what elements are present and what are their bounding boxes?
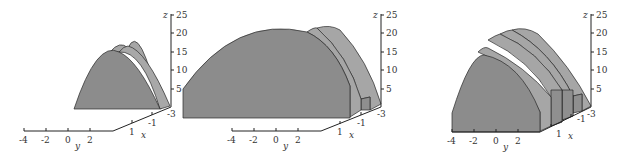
z-tick-label: 25	[596, 10, 608, 20]
y-tick-label: 0	[65, 135, 71, 145]
x-tick-label: -1	[357, 118, 366, 128]
z-tick-label: 25	[386, 10, 398, 20]
y-tick-label: 0	[493, 136, 499, 146]
y-tick-label: 2	[515, 136, 521, 146]
x-axis-label: x	[349, 130, 354, 140]
z-ticks: 5 10 15 20 25 z	[372, 10, 398, 94]
x-tick-label: -3	[587, 109, 596, 119]
z-tick-label: 20	[596, 28, 608, 38]
z-tick-label: 5	[596, 84, 602, 94]
x-tick-label: -1	[148, 118, 157, 128]
y-axis-label: y	[74, 141, 81, 151]
z-ticks: 5 10 15 20 25 z	[162, 10, 188, 94]
z-axis-label: z	[372, 10, 378, 20]
z-tick-label: 10	[176, 65, 188, 75]
z-tick-label: 10	[386, 65, 398, 75]
x-tick-label: 1	[129, 127, 135, 137]
y-tick-label: -2	[249, 135, 258, 145]
y-axis-label: y	[282, 141, 289, 151]
z-tick-label: 20	[176, 28, 188, 38]
x-tick-label: 1	[337, 127, 343, 137]
solid	[452, 29, 591, 132]
x-tick-label: -3	[167, 109, 176, 119]
x-axis-line	[113, 107, 171, 131]
y-tick-label: -4	[227, 135, 236, 145]
y-axis-label: y	[502, 142, 509, 152]
z-tick-label: 15	[176, 47, 188, 57]
z-tick-label: 5	[176, 84, 182, 94]
y-tick-label: 0	[273, 135, 279, 145]
slab-front-face	[74, 50, 160, 109]
slab-front-face	[573, 94, 582, 113]
y-tick-label: -2	[41, 135, 50, 145]
solid	[183, 26, 381, 118]
y-tick-label: -2	[469, 136, 478, 146]
y-tick-label: -4	[447, 136, 456, 146]
solid	[74, 41, 170, 109]
x-tick-label: -3	[377, 109, 386, 119]
z-ticks: 5 10 15 20 25 z	[582, 10, 608, 94]
z-axis-label: z	[162, 10, 168, 20]
panel-1: 5 10 15 20 25 z -4 -2 0 2 y	[19, 10, 188, 151]
y-tick-label: 2	[295, 135, 301, 145]
x-ticks: 1 -1 -3 x	[129, 109, 176, 140]
y-tick-label: 2	[87, 135, 93, 145]
slab-front-face	[551, 90, 562, 126]
z-tick-label: 10	[596, 65, 608, 75]
slab-front-face	[361, 97, 370, 110]
panel-2: 5 10 15 20 25 z -4 -2 0 2 y 1	[183, 10, 398, 151]
y-tick-label: -4	[19, 135, 28, 145]
z-tick-label: 5	[386, 84, 392, 94]
z-tick-label: 15	[386, 47, 398, 57]
z-tick-label: 15	[596, 47, 608, 57]
z-axis-label: z	[582, 10, 588, 20]
z-tick-label: 25	[176, 10, 188, 20]
panel-3: 5 10 15 20 25 z -4 -2 0 2 y 1	[447, 10, 608, 152]
x-axis-label: x	[141, 130, 146, 140]
x-axis-label: x	[568, 131, 573, 141]
figure: 5 10 15 20 25 z -4 -2 0 2 y	[0, 0, 619, 163]
x-tick-label: 1	[556, 129, 562, 139]
x-tick-label: -1	[577, 114, 586, 124]
z-tick-label: 20	[386, 28, 398, 38]
